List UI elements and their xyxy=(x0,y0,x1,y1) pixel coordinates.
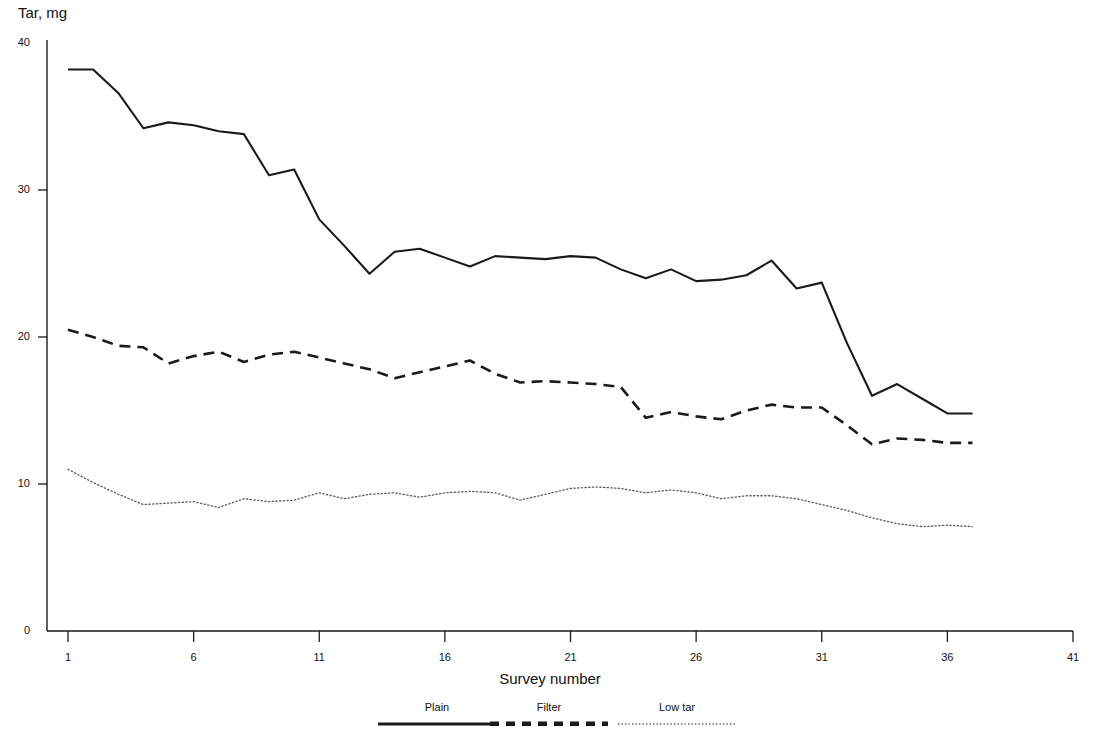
y-axis-title: Tar, mg xyxy=(18,4,67,21)
legend-label: Low tar xyxy=(592,700,762,714)
x-axis-tick-label: 41 xyxy=(1053,651,1093,663)
y-axis-ticks xyxy=(38,190,47,484)
y-axis-tick-label: 30 xyxy=(0,183,30,195)
plot-area xyxy=(0,0,1100,732)
y-axis-tick-label: 0 xyxy=(0,624,30,636)
chart-container: Tar, mg 010203040 1611162126313641 Surve… xyxy=(0,0,1100,732)
legend-swatch-dotted xyxy=(618,720,736,726)
x-axis-ticks xyxy=(68,631,1073,642)
x-axis-tick-label: 36 xyxy=(927,651,967,663)
x-axis-tick-label: 1 xyxy=(48,651,88,663)
chart-legend: PlainFilterLow tar xyxy=(0,700,1100,732)
x-axis-tick-label: 26 xyxy=(676,651,716,663)
axis-lines xyxy=(47,40,1073,631)
x-axis-tick-label: 16 xyxy=(425,651,465,663)
x-axis-title: Survey number xyxy=(0,670,1100,687)
series-line-plain xyxy=(68,69,973,413)
x-axis-tick-label: 6 xyxy=(174,651,214,663)
x-axis-tick-label: 21 xyxy=(551,651,591,663)
series-line-filter xyxy=(68,330,973,445)
x-axis-tick-label: 11 xyxy=(299,651,339,663)
series-line-low-tar xyxy=(68,469,973,526)
legend-swatch-dashed xyxy=(490,720,608,726)
legend-entry-low-tar[interactable]: Low tar xyxy=(592,700,762,726)
data-series-group xyxy=(68,69,973,526)
x-axis-tick-label: 31 xyxy=(802,651,842,663)
y-axis-tick-label: 20 xyxy=(0,330,30,342)
y-axis-tick-label: 40 xyxy=(0,36,30,48)
y-axis-tick-label: 10 xyxy=(0,477,30,489)
